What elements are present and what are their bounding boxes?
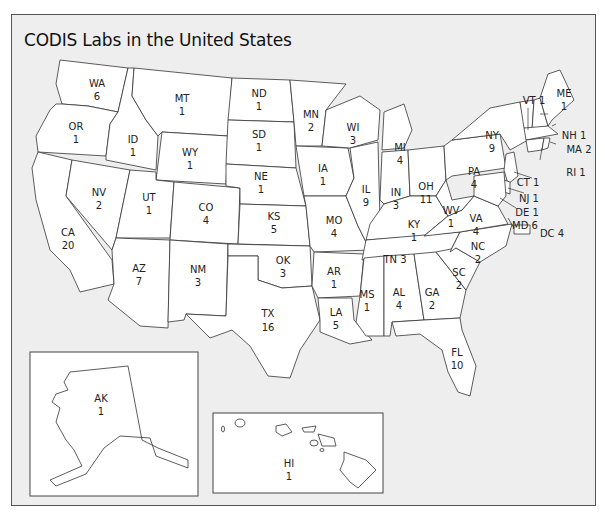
label-hi-count: 1 [286,471,292,482]
label-or-abbr: OR [69,121,84,132]
label-ga-count: 2 [429,300,435,311]
label-tx-abbr: TX [261,308,275,319]
label-va-abbr: VA [469,213,482,224]
label-hi-abbr: HI [284,458,294,469]
label-ri: RI 1 [566,167,585,178]
label-nv-abbr: NV [92,187,106,198]
label-pa-abbr: PA [468,166,480,177]
label-nj: NJ 1 [519,193,539,204]
state-wy [156,132,228,184]
label-ga-abbr: GA [425,287,440,298]
label-sd-count: 1 [256,142,262,153]
label-nm-count: 3 [195,277,201,288]
label-il-count: 9 [363,197,369,208]
label-ok-abbr: OK [276,255,291,266]
label-ky-abbr: KY [408,219,421,230]
label-nc-count: 2 [475,254,481,265]
label-fl-abbr: FL [451,347,463,358]
label-ar-count: 1 [331,279,337,290]
state-ma [524,126,558,140]
label-nc-abbr: NC [471,241,485,252]
state-nd [228,78,294,122]
state-ct [526,138,544,152]
label-ky-count: 1 [411,232,417,243]
label-ok-count: 3 [280,268,286,279]
label-ny-count: 9 [489,143,495,154]
label-wv-count: 1 [448,218,454,229]
label-la-abbr: LA [330,307,343,318]
label-il-abbr: IL [362,184,371,195]
label-id-count: 1 [130,147,136,158]
label-vt: VT 1 [523,95,546,106]
label-nv-count: 2 [96,200,102,211]
label-ca-abbr: CA [61,227,75,238]
label-wa-count: 6 [94,91,100,102]
us-map: WA 6 OR 1 CA 20 ID 1 NV 2 MT 1 WY 1 UT 1… [0,0,605,514]
label-wi-abbr: WI [347,122,360,133]
label-mo-abbr: MO [326,215,343,226]
label-dc: DC 4 [540,228,564,239]
label-wv-abbr: WV [443,205,460,216]
state-fl [392,318,476,396]
label-az-count: 7 [136,276,142,287]
label-tn: TN 3 [382,254,406,265]
label-nh: NH 1 [562,130,587,141]
label-mt-count: 1 [179,106,185,117]
label-oh-abbr: OH [418,181,433,192]
state-co [170,182,240,244]
label-ne-abbr: NE [254,171,268,182]
label-me-count: 1 [561,101,567,112]
label-wy-count: 1 [187,160,193,171]
label-sd-abbr: SD [252,129,266,140]
label-ak-count: 1 [98,406,104,417]
label-mt-abbr: MT [175,93,191,104]
label-md: MD 6 [512,220,538,231]
label-la-count: 5 [333,320,339,331]
label-mn-abbr: MN [303,109,319,120]
label-ia-abbr: IA [318,163,328,174]
label-me-abbr: ME [557,88,572,99]
label-al-count: 4 [396,300,402,311]
label-wi-count: 3 [350,135,356,146]
label-ms-count: 1 [364,302,370,313]
label-fl-count: 10 [451,360,464,371]
label-ia-count: 1 [320,176,326,187]
label-pa-count: 4 [471,179,477,190]
label-wy-abbr: WY [182,147,199,158]
label-wa-abbr: WA [89,78,105,89]
label-va-count: 4 [473,226,479,237]
label-in-count: 3 [393,200,399,211]
label-ne-count: 1 [258,184,264,195]
label-in-abbr: IN [391,187,401,198]
label-al-abbr: AL [393,287,406,298]
label-ut-count: 1 [146,205,152,216]
label-mi-count: 4 [397,155,403,166]
label-mn-count: 2 [308,122,314,133]
label-ks-count: 5 [271,224,277,235]
label-oh-count: 11 [420,194,433,205]
label-tx-count: 16 [262,322,275,333]
label-co-abbr: CO [199,202,214,213]
label-az-abbr: AZ [132,263,146,274]
label-ut-abbr: UT [142,192,156,203]
label-sc-abbr: SC [452,267,465,278]
label-ms-abbr: MS [360,289,375,300]
label-or-count: 1 [73,134,79,145]
label-ny-abbr: NY [485,130,499,141]
label-ks-abbr: KS [268,211,281,222]
label-mo-count: 4 [331,228,337,239]
label-de: DE 1 [515,207,539,218]
label-ca-count: 20 [62,240,75,251]
label-nd-abbr: ND [251,88,266,99]
label-nd-count: 1 [256,101,262,112]
label-ma: MA 2 [566,144,591,155]
label-id-abbr: ID [128,134,139,145]
label-ct: CT 1 [517,177,540,188]
label-sc-count: 2 [456,280,462,291]
label-nm-abbr: NM [190,264,206,275]
label-ar-abbr: AR [327,266,341,277]
label-mi-abbr: MI [394,142,406,153]
label-co-count: 4 [203,215,209,226]
label-ak-abbr: AK [94,393,108,404]
